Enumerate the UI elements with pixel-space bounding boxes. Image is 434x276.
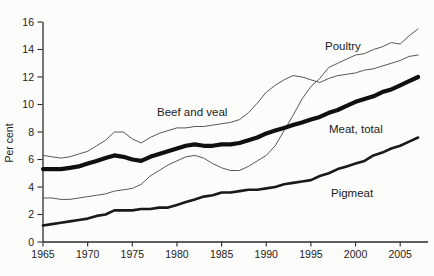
x-tick-label: 1995 (299, 248, 323, 260)
meat-trade-share-chart: 0246810121416 19651970197519801985199019… (0, 0, 434, 276)
y-tick-label: 12 (22, 71, 34, 83)
meat-total-label: Meat, total (329, 123, 383, 135)
y-tick-label: 10 (22, 98, 34, 110)
pigmeat-label: Pigmeat (331, 187, 374, 199)
x-axis-ticks: 196519701975198019851990199520002005 (31, 242, 412, 260)
y-tick-label: 2 (28, 208, 34, 220)
x-tick-label: 1970 (76, 248, 100, 260)
x-tick-label: 2005 (389, 248, 413, 260)
x-tick-label: 2000 (344, 248, 368, 260)
y-tick-label: 6 (28, 153, 34, 165)
x-tick-label: 1990 (255, 248, 279, 260)
poultry-line (43, 29, 418, 200)
series-labels: Beef and vealPoultryMeat, totalPigmeat (157, 40, 383, 199)
y-tick-label: 4 (28, 181, 34, 193)
x-tick-label: 1985 (210, 248, 234, 260)
chart-canvas: 0246810121416 19651970197519801985199019… (0, 0, 434, 276)
y-tick-label: 0 (28, 236, 34, 248)
y-axis-title: Per cent (3, 123, 15, 162)
pigmeat-line (43, 138, 418, 226)
y-tick-label: 8 (28, 126, 34, 138)
poultry-label: Poultry (325, 40, 361, 52)
x-tick-label: 1980 (165, 248, 189, 260)
y-tick-label: 16 (22, 16, 34, 28)
x-tick-label: 1965 (31, 248, 55, 260)
y-axis-ticks: 0246810121416 (22, 16, 42, 248)
beef-and-veal-label: Beef and veal (157, 106, 227, 118)
y-tick-label: 14 (22, 43, 34, 55)
x-tick-label: 1975 (121, 248, 145, 260)
